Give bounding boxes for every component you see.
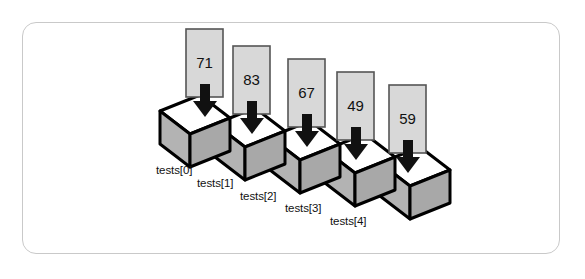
value-text-3: 49 [337, 97, 374, 114]
diagram-canvas: 71 83 67 49 59 tests[0] tests[1] tests[2… [0, 0, 585, 279]
value-text-4: 59 [389, 110, 426, 127]
value-text-2: 67 [288, 84, 325, 101]
cell-label-0: tests[0] [156, 164, 192, 176]
array-illustration [0, 0, 585, 279]
cell-label-4: tests[4] [330, 215, 366, 227]
value-text-1: 83 [233, 71, 270, 88]
cell-label-2: tests[2] [240, 190, 276, 202]
cell-label-1: tests[1] [197, 177, 233, 189]
cell-label-3: tests[3] [285, 202, 321, 214]
array-cell-0[interactable] [160, 95, 230, 167]
value-text-0: 71 [186, 54, 223, 71]
